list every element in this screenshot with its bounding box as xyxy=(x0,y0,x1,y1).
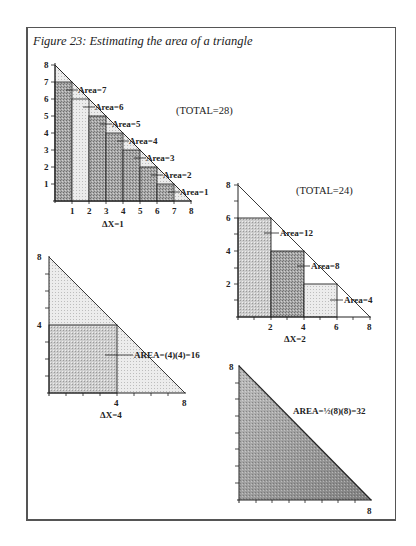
area-label: Area=3 xyxy=(146,153,175,163)
chart-dx4: 8 4 4 8 ΔX=4 AREA=(4)(4)=16 xyxy=(37,252,200,420)
xtick: 2 xyxy=(268,322,273,332)
area-label: Area=4 xyxy=(129,136,158,146)
xlabel-dx4: ΔX=4 xyxy=(100,410,122,420)
figure-canvas: 8 7 6 5 4 3 2 1 1 2 3 4 5 6 7 8 ΔX=1 Are… xyxy=(0,0,416,546)
ytick: 4 xyxy=(37,320,42,330)
rect-dx4-1 xyxy=(49,325,117,393)
total-label-dx2: (TOTAL=24) xyxy=(296,185,353,197)
xlabel-dx1: ΔX=1 xyxy=(102,219,124,229)
ytick: 5 xyxy=(44,111,49,121)
ytick: 7 xyxy=(44,77,49,87)
rect-dx1-4 xyxy=(106,133,123,201)
area-label: AREA=(4)(4)=16 xyxy=(134,350,200,360)
ytick: 4 xyxy=(226,246,231,256)
ytick: 1 xyxy=(44,179,49,189)
area-label: Area=4 xyxy=(344,295,373,305)
ytick: 2 xyxy=(44,162,49,172)
chart-dx1: 8 7 6 5 4 3 2 1 1 2 3 4 5 6 7 8 ΔX=1 Are… xyxy=(44,60,233,229)
area-label: Area=1 xyxy=(180,187,209,197)
area-label: AREA=½(8)(8)=32 xyxy=(293,406,366,416)
xtick: 4 xyxy=(121,206,126,216)
rect-dx1-1 xyxy=(55,82,72,201)
xtick: 4 xyxy=(114,398,119,408)
xtick: 5 xyxy=(138,206,143,216)
xtick: 7 xyxy=(172,206,177,216)
area-label: Area=8 xyxy=(311,261,340,271)
xtick: 1 xyxy=(70,206,75,216)
xtick: 3 xyxy=(104,206,109,216)
xtick: 8 xyxy=(182,398,187,408)
xtick: 8 xyxy=(367,322,372,332)
area-label: Area=7 xyxy=(78,85,107,95)
total-label-dx1: (TOTAL=28) xyxy=(176,105,233,117)
ytick: 2 xyxy=(226,279,231,289)
rect-dx1-2 xyxy=(72,99,89,201)
xtick: 6 xyxy=(155,206,160,216)
chart-dx2: 8 6 4 2 2 4 6 8 ΔX=2 Area=12 Area=8 Area… xyxy=(226,180,373,344)
rect-dx1-6 xyxy=(140,167,157,201)
area-label: Area=2 xyxy=(163,170,192,180)
xtick: 8 xyxy=(189,206,194,216)
rect-dx2-2 xyxy=(271,251,304,317)
ytick: 8 xyxy=(229,362,234,372)
ytick: 8 xyxy=(37,252,42,262)
xtick: 2 xyxy=(87,206,92,216)
xlabel-dx2: ΔX=2 xyxy=(284,334,306,344)
xtick: 8 xyxy=(367,506,372,516)
xtick: 6 xyxy=(334,322,339,332)
xtick: 4 xyxy=(301,322,306,332)
ytick: 3 xyxy=(44,145,49,155)
area-label: Area=5 xyxy=(112,119,141,129)
ytick: 8 xyxy=(226,180,231,190)
area-label: Area=6 xyxy=(95,102,124,112)
ytick: 4 xyxy=(44,128,49,138)
ytick: 6 xyxy=(44,94,49,104)
rect-dx1-7 xyxy=(157,184,174,201)
ytick: 6 xyxy=(226,213,231,223)
area-label: Area=12 xyxy=(280,228,313,238)
rect-dx1-3 xyxy=(89,116,106,201)
ytick: 8 xyxy=(44,60,49,70)
rect-dx2-3 xyxy=(304,284,337,317)
chart-exact: 8 8 AREA=½(8)(8)=32 xyxy=(229,362,372,516)
